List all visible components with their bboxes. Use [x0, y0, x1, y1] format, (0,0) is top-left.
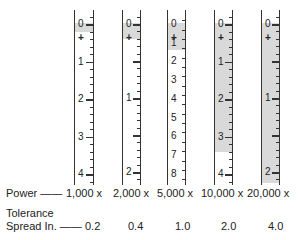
minor-tick [137, 39, 141, 40]
scale-left-edge [122, 10, 123, 185]
minor-tick [182, 104, 186, 105]
major-tick [225, 174, 233, 176]
scale-label-4: 4 [171, 94, 177, 104]
major-tick [225, 62, 233, 64]
minor-tick [276, 113, 280, 114]
minor-tick [276, 54, 280, 55]
minor-tick [272, 135, 280, 137]
minor-tick [137, 17, 141, 18]
minor-tick [90, 84, 94, 85]
minor-tick [229, 32, 233, 33]
scale-label-4: 4 [218, 169, 224, 179]
minor-tick [276, 31, 280, 32]
minor-tick [229, 17, 233, 18]
scale-label-0: 0 [126, 19, 132, 29]
minor-tick [137, 113, 141, 114]
minor-tick [90, 182, 94, 183]
minor-tick [229, 39, 233, 40]
minor-tick [229, 114, 233, 115]
major-tick [86, 137, 94, 139]
scale-label-1: 1 [265, 93, 271, 103]
major-tick [225, 137, 233, 139]
minor-tick [137, 150, 141, 151]
scale-left-edge [261, 10, 262, 185]
scale-label-7: 7 [171, 150, 177, 160]
minor-tick [276, 150, 280, 151]
minor-tick [137, 157, 141, 158]
minor-tick [229, 77, 233, 78]
scale-right-edge [185, 10, 186, 185]
scale-label-8: 8 [171, 169, 177, 179]
minor-tick [182, 161, 186, 162]
plus-marker: + [78, 33, 84, 43]
scale-label-0: 0 [78, 19, 84, 29]
minor-tick [229, 167, 233, 168]
minor-tick [182, 142, 186, 143]
minor-tick [182, 132, 186, 133]
minor-tick [182, 151, 186, 152]
minor-tick [229, 182, 233, 183]
minor-tick [182, 48, 186, 49]
tolerance-leader-line: —— [60, 220, 82, 232]
scale-label-1: 1 [126, 93, 132, 103]
plus-marker: + [218, 33, 224, 43]
tolerance-label-text: Spread In. [6, 220, 57, 232]
power-label-text: Power [6, 187, 37, 199]
scale-label-6: 6 [171, 131, 177, 141]
minor-tick [276, 179, 280, 180]
scale-label-1: 1 [78, 57, 84, 67]
minor-tick [229, 54, 233, 55]
minor-tick [90, 17, 94, 18]
minor-tick [137, 142, 141, 143]
minor-tick [137, 46, 141, 47]
power-label: Power —— [6, 187, 62, 199]
tolerance-value-4: 2.0 [221, 220, 236, 232]
scale-label-0: 0 [171, 19, 177, 29]
minor-tick [90, 107, 94, 108]
scale-label-0: 0 [265, 19, 271, 29]
minor-tick [137, 83, 141, 84]
tolerance-value-3: 1.0 [175, 220, 190, 232]
scale-label-2: 2 [265, 167, 271, 177]
tolerance-value-1: 0.2 [85, 220, 100, 232]
minor-tick [276, 17, 280, 18]
minor-tick [90, 77, 94, 78]
scale-5: 0+12 [261, 10, 280, 185]
scale-label-2: 2 [218, 94, 224, 104]
minor-tick [137, 120, 141, 121]
major-tick [272, 172, 280, 174]
minor-tick [182, 30, 186, 31]
minor-tick [137, 76, 141, 77]
minor-tick [229, 152, 233, 153]
minor-tick [276, 128, 280, 129]
minor-tick [229, 84, 233, 85]
minor-tick [276, 120, 280, 121]
major-tick [133, 98, 141, 100]
scale-left-edge [74, 10, 75, 185]
scale-left-edge [167, 10, 168, 185]
scale-4: 0+1234 [214, 10, 233, 185]
minor-tick [182, 67, 186, 68]
minor-tick [276, 46, 280, 47]
minor-tick [182, 20, 186, 21]
minor-tick [276, 157, 280, 158]
major-tick [225, 24, 233, 26]
minor-tick [276, 83, 280, 84]
minor-tick [276, 76, 280, 77]
minor-tick [90, 167, 94, 168]
minor-tick [182, 39, 186, 40]
tolerance-value-2: 0.4 [128, 220, 143, 232]
major-tick [86, 24, 94, 26]
major-tick [133, 172, 141, 174]
minor-tick [182, 76, 186, 77]
tolerance-value-5: 4.0 [268, 220, 283, 232]
minor-tick [276, 68, 280, 69]
minor-tick [90, 159, 94, 160]
minor-tick [90, 69, 94, 70]
minor-tick [229, 92, 233, 93]
scale-1: 0+1234 [74, 10, 94, 185]
minor-tick [276, 105, 280, 106]
minor-tick [137, 54, 141, 55]
minor-tick [137, 128, 141, 129]
scale-label-1: 1 [171, 38, 177, 48]
